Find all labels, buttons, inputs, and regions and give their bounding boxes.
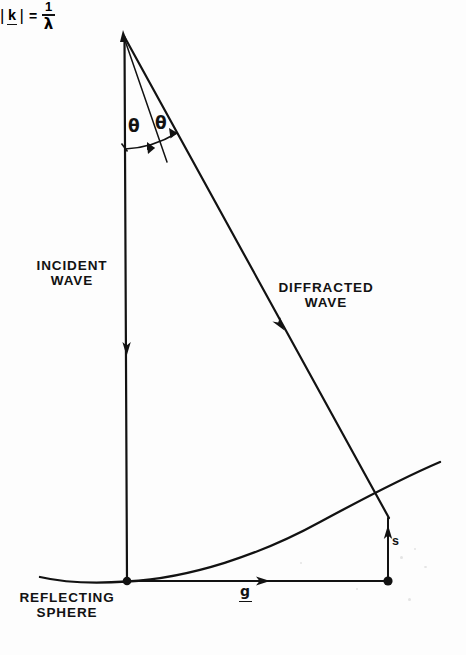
- apex-point: [120, 30, 128, 42]
- reflecting-sphere-curve: [40, 462, 440, 583]
- diffracted-wave-line: [124, 36, 389, 518]
- scan-speck: [408, 598, 411, 601]
- scan-speck: [424, 566, 427, 568]
- theta-angle-label-right: θ: [155, 113, 167, 133]
- scan-speck: [356, 588, 358, 590]
- g-vector-label: g: [239, 584, 252, 602]
- diffracted-wave-label: DIFFRACTED WAVE: [268, 280, 384, 310]
- origin-point: [123, 577, 132, 586]
- theta-angle-label-left: θ: [128, 116, 140, 136]
- ewald-sphere-figure: INCIDENT WAVE DIFFRACTED WAVE REFLECTING…: [0, 0, 466, 655]
- scan-speck: [300, 562, 302, 564]
- s-vector-label: s: [392, 534, 399, 548]
- incident-wave-line: [125, 38, 128, 581]
- reciprocal-lattice-point: [383, 576, 392, 585]
- scan-speck: [414, 548, 416, 550]
- incident-wave-label: INCIDENT WAVE: [24, 258, 120, 288]
- figure-drawing: [0, 0, 466, 655]
- scan-speck: [400, 556, 403, 559]
- reflecting-sphere-label: REFLECTING SPHERE: [8, 590, 126, 620]
- angle-bisector-line: [124, 36, 168, 162]
